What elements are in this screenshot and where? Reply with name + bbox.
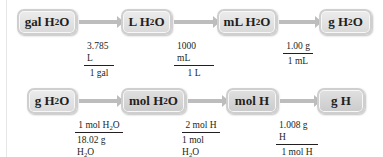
factor-denominator: 1 mol H2O — [179, 133, 223, 157]
node-label: mol H — [235, 93, 269, 109]
factor-denominator: 18.02 g H2O — [74, 133, 124, 157]
node-label: L H — [129, 14, 150, 30]
node-label: mL H — [224, 14, 256, 30]
text: O — [192, 147, 199, 157]
left-margin-rule — [6, 0, 7, 157]
text: 1.008 g H — [279, 120, 308, 142]
arrow-right-icon — [280, 99, 315, 103]
node-label: O — [59, 14, 69, 30]
conversion-factor: 1 mol H2O 18.02 g H2O — [74, 119, 124, 157]
conversion-factor: 1.00 g 1 mL — [283, 40, 313, 67]
node-label: g H — [331, 93, 351, 109]
node-g-h: g H — [317, 88, 365, 114]
text: 1 mol H — [78, 120, 109, 130]
node-g-h2o-2: g H2O — [27, 88, 77, 114]
arrow-right-icon — [79, 20, 118, 24]
text: 2 mol H — [185, 120, 216, 130]
node-label: O — [353, 14, 363, 30]
factor-numerator: 1.00 g — [283, 40, 313, 54]
node-l-h2o: L H2O — [121, 9, 172, 35]
node-label: g H — [328, 14, 348, 30]
conversion-factor: 1.008 g H 1 mol H — [276, 119, 318, 157]
factor-numerator: 3.785 L — [84, 40, 114, 66]
arrow-right-icon — [174, 20, 214, 24]
node-label: O — [260, 14, 270, 30]
node-g-h2o: g H2O — [319, 9, 372, 35]
text: O — [87, 147, 94, 157]
node-label: O — [168, 93, 178, 109]
node-gal-h2o: gal H2O — [17, 9, 77, 35]
node-label: O — [154, 14, 164, 30]
factor-denominator: 1 L — [185, 66, 204, 79]
factor-numerator: 1000 mL — [174, 40, 214, 66]
conversion-factor: 3.785 L 1 gal — [84, 40, 114, 79]
arrow-right-icon — [79, 99, 118, 103]
factor-denominator: 1 mol H — [278, 145, 315, 157]
node-label: g H — [35, 93, 55, 109]
node-label: gal H — [25, 14, 55, 30]
factor-denominator: 1 gal — [87, 66, 112, 79]
text: 1 mol H — [281, 147, 312, 157]
node-label: O — [59, 93, 69, 109]
arrow-right-icon — [279, 20, 316, 24]
text: O — [113, 120, 120, 130]
conversion-factor: 1000 mL 1 L — [174, 40, 214, 79]
node-mol-h: mol H — [226, 88, 278, 114]
node-ml-h2o: mL H2O — [217, 9, 277, 35]
factor-numerator: 1.008 g H — [276, 119, 318, 145]
arrow-right-icon — [188, 99, 223, 103]
factor-denominator: 1 mL — [285, 54, 311, 67]
node-mol-h2o: mol H2O — [121, 88, 186, 114]
factor-numerator: 2 mol H — [182, 119, 219, 133]
conversion-factor: 2 mol H 1 mol H2O — [179, 119, 223, 157]
node-label: mol H — [129, 93, 163, 109]
factor-numerator: 1 mol H2O — [75, 119, 122, 133]
